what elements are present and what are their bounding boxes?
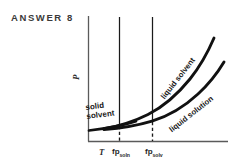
phase-diagram-svg bbox=[0, 0, 237, 163]
x-axis-label: T bbox=[99, 147, 104, 157]
y-axis-label: P bbox=[71, 75, 81, 81]
chart-surface bbox=[0, 0, 237, 163]
x-tick-label-fp-solv: fpsolv bbox=[145, 147, 163, 158]
curve-label-solid-solvent: solid solvent bbox=[85, 101, 115, 122]
x-tick-sub-soln: soln bbox=[120, 152, 130, 158]
chart-page: ANSWER 8 P T fpsoln bbox=[0, 0, 237, 163]
x-tick-base-soln: fp bbox=[112, 147, 120, 156]
x-tick-sub-solv: solv bbox=[153, 152, 163, 158]
x-tick-label-fp-soln: fpsoln bbox=[112, 147, 130, 158]
x-tick-base-solv: fp bbox=[145, 147, 153, 156]
curve-liquid-solvent bbox=[104, 38, 214, 129]
